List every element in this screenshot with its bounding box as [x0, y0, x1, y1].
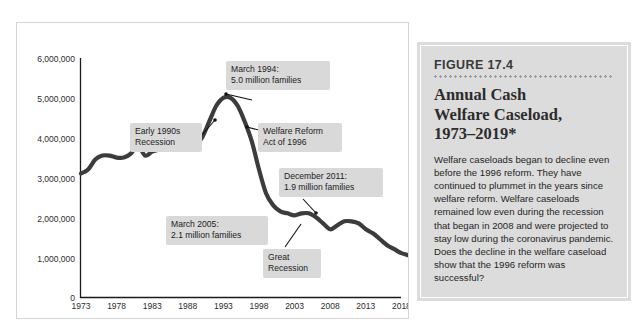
annotation-december-2011: December 2011: 1.9 million families	[279, 168, 383, 197]
x-tick-label: 1998	[250, 301, 269, 311]
dotted-divider	[434, 75, 614, 78]
x-tick-label: 1973	[72, 301, 91, 311]
y-tick-label: 3,000,000	[37, 174, 75, 184]
x-tick-label: 1983	[143, 301, 162, 311]
figure-caption-box: FIGURE 17.4 Annual Cash Welfare Caseload…	[417, 42, 631, 301]
x-tick-label: 1978	[107, 301, 126, 311]
annotation-early-1990s-recession: Early 1990s Recession	[130, 123, 202, 152]
leader-dot-welfare-reform-act	[245, 125, 249, 129]
leader-dot-december-2011	[314, 211, 318, 215]
y-tick-label: 2,000,000	[37, 214, 75, 224]
leader-dot-march-1994	[224, 92, 228, 96]
annotation-great-recession: Great Recession	[263, 249, 321, 278]
leader-dot-early-1990s-recession	[213, 118, 217, 122]
y-tick-label: 6,000,000	[37, 54, 75, 64]
leader-line-december-2011	[303, 199, 316, 213]
annotation-march-2005: March 2005: 2.1 million families	[166, 216, 268, 245]
x-tick-label: 2018	[392, 301, 408, 311]
x-tick-label: 1988	[178, 301, 197, 311]
y-tick-label: 1,000,000	[37, 254, 75, 264]
y-tick-label: 5,000,000	[37, 94, 75, 104]
x-tick-label: 1993	[214, 301, 233, 311]
figure-caption-inner: FIGURE 17.4 Annual Cash Welfare Caseload…	[420, 45, 628, 298]
leader-line-great-recession	[285, 224, 301, 247]
x-axis-tick-labels: 1973 1978 1983 1988 1993 1998 2003 2008 …	[72, 301, 408, 311]
figure-body-text: Welfare caseloads began to decline even …	[434, 153, 614, 285]
y-tick-label: 4,000,000	[37, 134, 75, 144]
annotation-welfare-reform-act-1996: Welfare Reform Act of 1996	[258, 123, 342, 152]
chart-panel: 6,000,000 5,000,000 4,000,000 3,000,000 …	[16, 22, 409, 319]
figure-title: Annual Cash Welfare Caseload, 1973–2019*	[434, 85, 614, 144]
figure-number-label: FIGURE 17.4	[434, 58, 614, 72]
annotation-march-1994-peak: March 1994: 5.0 million families	[226, 61, 330, 90]
y-axis-tick-labels: 6,000,000 5,000,000 4,000,000 3,000,000 …	[37, 54, 75, 303]
x-tick-label: 2013	[356, 301, 375, 311]
x-tick-label: 2008	[321, 301, 340, 311]
x-tick-label: 2003	[285, 301, 304, 311]
